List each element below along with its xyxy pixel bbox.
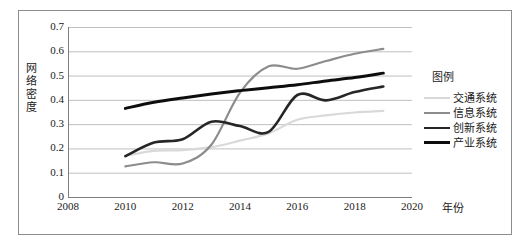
legend-swatch-icon	[424, 141, 450, 144]
x-tick-label: 2020	[392, 200, 432, 212]
legend-item-2[interactable]: 创新系统	[424, 120, 510, 135]
legend-item-0[interactable]: 交通系统	[424, 90, 510, 105]
x-tick-label: 2014	[220, 200, 260, 212]
legend-item-label: 产业系统	[453, 137, 497, 149]
x-tick-label: 2010	[105, 200, 145, 212]
legend-item-label: 交通系统	[453, 92, 497, 104]
legend-entries: 交通系统信息系统创新系统产业系统	[424, 90, 510, 150]
legend-swatch-icon	[424, 97, 450, 99]
x-tick-label: 2008	[48, 200, 88, 212]
legend-swatch-icon	[424, 112, 450, 114]
legend-title: 图例	[432, 68, 510, 84]
legend-item-label: 信息系统	[453, 107, 497, 119]
legend-item-1[interactable]: 信息系统	[424, 105, 510, 120]
x-axis-title: 年份	[442, 199, 464, 215]
legend-swatch-icon	[424, 127, 450, 129]
x-tick-label: 2016	[277, 200, 317, 212]
legend-item-3[interactable]: 产业系统	[424, 135, 510, 150]
x-tick-label: 2012	[163, 200, 203, 212]
chart-legend: 图例 交通系统信息系统创新系统产业系统	[424, 68, 510, 150]
legend-item-label: 创新系统	[453, 122, 497, 134]
chart-container: 网络密度 00.10.20.30.40.50.60.7 200820102012…	[0, 0, 529, 250]
x-tick-label: 2018	[335, 200, 375, 212]
